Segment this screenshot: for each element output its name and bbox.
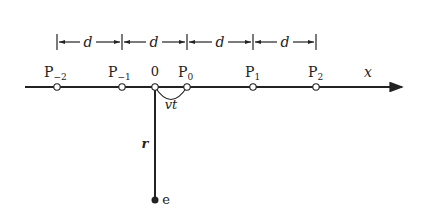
svg-text:P2: P2 bbox=[308, 64, 323, 82]
point-p-minus-1 bbox=[119, 84, 125, 90]
point-label-p-2: P2 bbox=[308, 64, 323, 82]
spacing-dimension bbox=[57, 34, 316, 50]
point-p-2 bbox=[313, 84, 319, 90]
displacement-label: vt bbox=[165, 97, 178, 112]
spacing-label-1: d bbox=[84, 34, 93, 50]
charge-label: e bbox=[162, 192, 170, 207]
svg-text:P−1: P−1 bbox=[108, 64, 131, 82]
charge-dot bbox=[152, 197, 159, 204]
svg-text:P1: P1 bbox=[245, 64, 260, 82]
point-label-p-minus-2: P−2 bbox=[44, 64, 67, 82]
point-p-minus-2 bbox=[54, 84, 60, 90]
origin-label: 0 bbox=[151, 64, 159, 79]
spacing-label-4: d bbox=[281, 34, 290, 50]
point-label-p-0: P0 bbox=[178, 64, 193, 82]
svg-text:P0: P0 bbox=[178, 64, 193, 82]
point-p-1 bbox=[250, 84, 256, 90]
diagram-canvas: d d d d x vt r e 0 P−2 P−1 P0 bbox=[0, 0, 423, 220]
distance-label: r bbox=[142, 136, 150, 151]
diagram-svg: d d d d x vt r e 0 P−2 P−1 P0 bbox=[0, 0, 423, 220]
point-p-0 bbox=[184, 84, 190, 90]
origin-point bbox=[152, 84, 158, 90]
svg-text:P−2: P−2 bbox=[44, 64, 67, 82]
x-axis-label: x bbox=[364, 64, 372, 80]
point-label-p-minus-1: P−1 bbox=[108, 64, 131, 82]
point-label-p-1: P1 bbox=[245, 64, 260, 82]
spacing-label-3: d bbox=[216, 34, 225, 50]
spacing-label-2: d bbox=[150, 34, 159, 50]
